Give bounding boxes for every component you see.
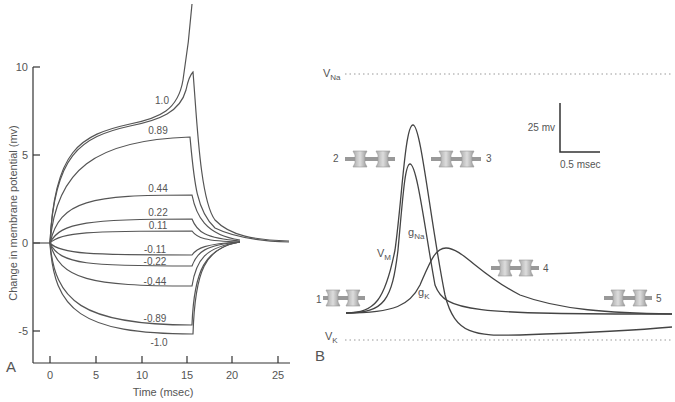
svg-text:4: 4 <box>543 263 549 274</box>
vm-label: VM <box>377 247 391 262</box>
k-channel-icon <box>498 260 512 276</box>
svg-text:VNa: VNa <box>323 67 341 82</box>
na-channel-icon <box>346 290 360 306</box>
panel-a: 10 5 0 -5 0 5 10 15 20 25 Time (msec) Ch… <box>6 4 290 398</box>
curve-label-neg0-11: -0.11 <box>144 244 166 255</box>
svg-text:1: 1 <box>316 294 322 305</box>
na-channel-icon <box>519 260 533 276</box>
x-tick-5: 5 <box>93 369 99 381</box>
vk-reference: VK <box>325 330 672 345</box>
curve-label-neg1-0: -1.0 <box>150 337 168 348</box>
x-tick-labels: 0 5 10 15 20 25 <box>47 369 284 381</box>
k-channel-icon <box>439 151 453 167</box>
y-tick-5: 5 <box>22 149 28 161</box>
curve-label-1-0: 1.0 <box>155 95 169 106</box>
panel-label-b: B <box>315 347 325 364</box>
x-tick-10: 10 <box>136 369 148 381</box>
channel-state-2: 2 <box>333 151 395 167</box>
curve-label-0-11: 0.11 <box>149 220 168 231</box>
x-tick-15: 15 <box>181 369 193 381</box>
svg-text:VK: VK <box>325 330 338 345</box>
channel-state-3: 3 <box>431 151 492 167</box>
x-axis-label: Time (msec) <box>133 386 194 398</box>
k-channel-icon <box>326 290 340 306</box>
na-channel-icon <box>633 290 647 306</box>
curve-label-0-22: 0.22 <box>148 207 168 218</box>
x-tick-20: 20 <box>226 369 238 381</box>
y-axis-label: Change in membrane potential (mv) <box>7 125 19 300</box>
channel-state-5: 5 <box>604 290 662 306</box>
x-tick-0: 0 <box>47 369 53 381</box>
gna-label: gNa <box>408 226 425 241</box>
svg-text:5: 5 <box>656 293 662 304</box>
curve-label-neg0-22: -0.22 <box>144 256 167 267</box>
na-channel-icon <box>460 151 474 167</box>
channel-state-4: 4 <box>491 260 549 276</box>
scale-label-time: 0.5 msec <box>560 159 601 170</box>
gk-label: gK <box>418 286 430 301</box>
vna-reference: VNa <box>323 67 672 82</box>
svg-text:3: 3 <box>486 153 492 164</box>
na-channel-icon <box>376 151 390 167</box>
curve-label-neg0-44: -0.44 <box>144 276 167 287</box>
curve-labels: 1.0 0.89 0.44 0.22 0.11 -0.11 -0.22 -0.4… <box>144 95 170 348</box>
curve-labels-b: VM gNa gK <box>377 226 430 301</box>
y-tick-10: 10 <box>16 61 28 73</box>
y-tick-neg5: -5 <box>18 325 28 337</box>
scale-bar: 25 mv 0.5 msec <box>528 103 601 170</box>
panel-label-a: A <box>6 358 16 375</box>
x-tick-25: 25 <box>272 369 284 381</box>
curve-label-0-44: 0.44 <box>148 183 168 194</box>
channel-state-1: 1 <box>316 290 365 306</box>
panel-b: VNa VK B 25 mv 0.5 msec VM gNa gK <box>315 67 672 364</box>
curve-label-0-89: 0.89 <box>148 125 168 136</box>
scale-label-voltage: 25 mv <box>528 122 555 133</box>
k-channel-icon <box>611 290 625 306</box>
y-tick-0: 0 <box>22 237 28 249</box>
figure: 10 5 0 -5 0 5 10 15 20 25 Time (msec) Ch… <box>0 0 675 402</box>
svg-text:2: 2 <box>333 153 339 164</box>
curve-label-neg0-89: -0.89 <box>144 313 167 324</box>
k-channel-icon <box>353 151 367 167</box>
